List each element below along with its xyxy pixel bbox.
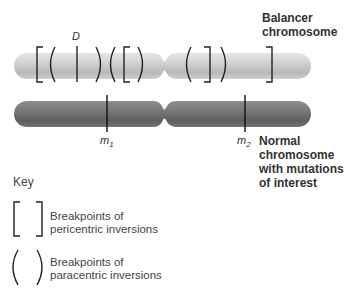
key-item-paracentric: Breakpoints of paracentric inversions [50,256,162,282]
balancer-label-line2: chromosome [262,25,337,39]
key-close-paren [37,250,42,285]
balancer-label-line1: Balancer [262,11,337,25]
key-item-pericentric: Breakpoints of pericentric inversions [50,210,158,236]
key-item-paracentric-line1: Breakpoints of [50,256,162,269]
m1-marker-label: m1 [100,134,114,149]
normal-chromosome-label: Normal chromosome with mutations of inte… [259,134,344,190]
key-title: Key [13,176,34,189]
key-item-pericentric-line1: Breakpoints of [50,210,158,223]
normal-label-line2: chromosome [259,148,344,162]
d-marker-label: D [72,30,80,42]
key-item-pericentric-line2: pericentric inversions [50,223,158,236]
m2-subscript: 2 [246,140,250,149]
key-symbols [13,202,42,285]
m1-text: m [100,134,109,146]
m2-marker-label: m2 [237,134,251,149]
balancer-chromosome-label: Balancer chromosome [262,11,337,39]
balancer-chromosome [14,53,311,79]
key-item-paracentric-line2: paracentric inversions [50,269,162,282]
m1-subscript: 1 [109,140,113,149]
m2-text: m [237,134,246,146]
key-close-bracket [36,202,42,236]
key-open-bracket [14,202,20,236]
normal-label-line3: with mutations [259,162,344,176]
normal-label-line4: of interest [259,176,344,190]
key-open-paren [13,250,18,285]
normal-label-line1: Normal [259,134,344,148]
normal-chromosome [14,101,311,127]
